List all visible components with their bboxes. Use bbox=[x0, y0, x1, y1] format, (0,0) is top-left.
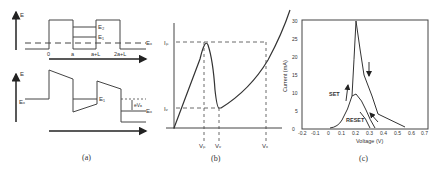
reset-label: RESET bbox=[346, 117, 365, 123]
axis-label-e: E bbox=[20, 12, 24, 18]
xtick: 0.4 bbox=[380, 130, 387, 136]
x-axis-label: Voltage (V) bbox=[356, 138, 383, 144]
arrow-up-icon bbox=[346, 85, 348, 101]
xtick: 0 bbox=[327, 130, 330, 136]
biased-barrier-profile bbox=[25, 70, 146, 122]
caption-b: (b) bbox=[211, 154, 221, 163]
ytick: 15 bbox=[292, 72, 298, 78]
ytick: 0 bbox=[292, 126, 295, 132]
tick-a: a bbox=[71, 51, 75, 57]
ytick: 10 bbox=[292, 90, 298, 96]
panel-c: 0 5 10 15 20 25 30 -0.2 -0.1 0 0.1 0.2 0… bbox=[282, 18, 428, 163]
label-ev: eVₐ bbox=[134, 102, 142, 108]
panel-a-bottom: E Eₓ E₁ eVₐ Eₓ (a) bbox=[16, 70, 152, 162]
axis-label-e: E bbox=[20, 71, 24, 77]
caption-a: (a) bbox=[82, 153, 91, 162]
xtick: 0.3 bbox=[366, 130, 373, 136]
barrier-profile bbox=[25, 20, 146, 49]
xtick: 0.7 bbox=[421, 130, 428, 136]
label-ef: Eₓ bbox=[146, 40, 152, 46]
label-ef-right: Eₓ bbox=[146, 108, 152, 114]
ytick: 20 bbox=[292, 54, 298, 60]
iv-curve bbox=[174, 10, 290, 128]
peak-curve bbox=[352, 21, 405, 127]
xtick: 0.2 bbox=[352, 130, 359, 136]
tick-a-plus-l: a+L bbox=[91, 51, 100, 57]
label-vp: Vₚ bbox=[199, 143, 206, 149]
ytick: 25 bbox=[292, 36, 298, 42]
y-ticks: 0 5 10 15 20 25 30 bbox=[292, 18, 298, 132]
label-vx: Vₓ bbox=[262, 143, 268, 149]
set-label: SET bbox=[329, 91, 340, 97]
label-e1: E₁ bbox=[98, 34, 104, 40]
ytick: 30 bbox=[292, 18, 298, 24]
label-e2: E₂ bbox=[98, 24, 105, 30]
xtick: 0.6 bbox=[408, 130, 415, 136]
xtick: 0.1 bbox=[338, 130, 345, 136]
ytick: 5 bbox=[295, 108, 298, 114]
label-e1: E₁ bbox=[99, 96, 105, 102]
xtick: -0.1 bbox=[311, 130, 320, 136]
panel-b: Iₚ Iᵥ Vₚ Vᵥ Vₓ (b) bbox=[164, 10, 290, 163]
figure: E E₂ E₁ Eₓ 0 a a+L 2a+L E Eₓ E₁ eVₐ Eₓ (… bbox=[0, 0, 442, 170]
tick-0: 0 bbox=[47, 51, 50, 57]
panel-a-top: E E₂ E₁ Eₓ 0 a a+L 2a+L bbox=[16, 12, 152, 59]
tick-2a-plus-l: 2a+L bbox=[114, 51, 126, 57]
label-iv: Iᵥ bbox=[164, 106, 168, 112]
label-ip: Iₚ bbox=[164, 40, 169, 46]
plot-frame bbox=[302, 20, 428, 129]
caption-c: (c) bbox=[359, 154, 368, 163]
label-vv: Vᵥ bbox=[215, 143, 221, 149]
y-axis-label: Current (mA) bbox=[282, 60, 288, 92]
xtick: 0.5 bbox=[394, 130, 401, 136]
xtick: -0.2 bbox=[298, 130, 307, 136]
x-ticks: -0.2 -0.1 0 0.1 0.2 0.3 0.4 0.5 0.6 0.7 bbox=[298, 130, 428, 136]
label-ef-left: Eₓ bbox=[19, 99, 25, 105]
